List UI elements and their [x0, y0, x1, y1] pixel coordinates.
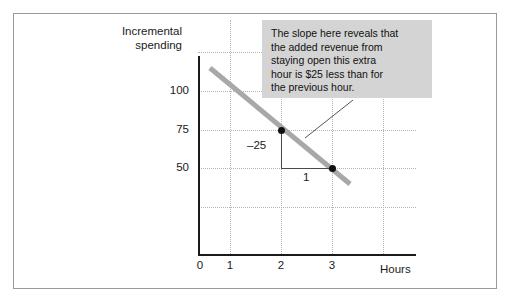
data-point-3-50 — [329, 165, 336, 172]
trend-line-svg — [0, 0, 513, 303]
gridline-vertical-1 — [230, 20, 231, 254]
y-tick-label-75: 75 — [155, 123, 189, 135]
x-tick-label-3: 3 — [322, 259, 342, 271]
x-tick-label-1: 1 — [220, 259, 240, 271]
x-axis-title: Hours — [380, 263, 411, 275]
plot-area: –25 1 100 75 50 0 1 2 3 Incremental spen… — [0, 0, 513, 303]
slope-rise-label: –25 — [247, 139, 266, 151]
slope-triangle-vertical-leg — [281, 130, 282, 168]
annotation-line-2: the added revenue from — [271, 41, 423, 55]
y-axis-title: Incremental spending — [90, 24, 182, 52]
y-tick-label-50: 50 — [155, 161, 189, 173]
y-axis-title-line1: Incremental — [90, 24, 182, 38]
data-point-2-75 — [278, 127, 285, 134]
annotation-line-1: The slope here reveals that — [271, 27, 423, 41]
x-axis — [198, 254, 416, 256]
y-axis — [198, 56, 200, 255]
annotation-line-3: staying open this extra — [271, 54, 423, 68]
annotation-leader-line — [305, 100, 353, 138]
y-tick-label-100: 100 — [155, 84, 189, 96]
y-axis-title-line2: spending — [90, 38, 182, 52]
x-tick-label-0: 0 — [190, 259, 210, 271]
x-tick-label-2: 2 — [271, 259, 291, 271]
annotation-line-5: the previous hour. — [271, 81, 423, 95]
slope-triangle-horizontal-leg — [281, 168, 332, 169]
chart-figure: –25 1 100 75 50 0 1 2 3 Incremental spen… — [0, 0, 513, 303]
annotation-leader-line-svg — [0, 0, 513, 303]
slope-run-label: 1 — [303, 171, 309, 183]
annotation-callout: The slope here reveals that the added re… — [262, 20, 432, 98]
annotation-line-4: hour is $25 less than for — [271, 68, 423, 82]
